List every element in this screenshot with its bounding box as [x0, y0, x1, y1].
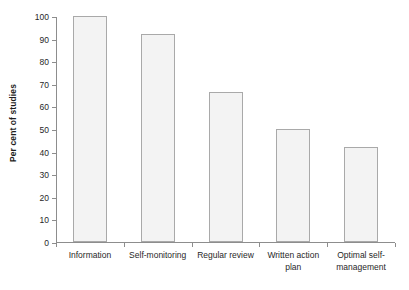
y-axis-tick-label: 90 — [40, 35, 49, 45]
bar — [141, 34, 175, 242]
x-axis-category-label: Written action plan — [259, 250, 327, 273]
bar — [73, 16, 107, 242]
x-axis-category-label: Regular review — [192, 250, 260, 262]
x-axis-tick — [124, 243, 125, 247]
y-axis-tick-label: 0 — [44, 238, 49, 248]
y-axis-tick-label-wrap: 20 — [56, 198, 57, 199]
y-axis-tick-label-wrap: 90 — [56, 40, 57, 41]
x-axis-category-label: Self-monitoring — [124, 250, 192, 262]
x-axis-tick — [192, 243, 193, 247]
bar-chart-figure: Per cent of studies 01020304050607080901… — [0, 0, 409, 290]
y-axis-tick-label: 30 — [40, 170, 49, 180]
y-axis-tick-label-wrap: 60 — [56, 107, 57, 108]
x-axis-tick — [327, 243, 328, 247]
y-axis-tick-label: 70 — [40, 80, 49, 90]
x-axis-tick — [259, 243, 260, 247]
x-axis-tick — [395, 243, 396, 247]
y-axis-tick-label: 20 — [40, 193, 49, 203]
x-axis-category-label: Optimal self-management — [327, 250, 395, 273]
bar — [209, 92, 243, 242]
y-axis-title-label: Per cent of studies — [8, 84, 18, 162]
y-axis-tick-label-wrap: 40 — [56, 153, 57, 154]
y-axis-tick-label: 100 — [35, 12, 49, 22]
plot-area: 0102030405060708090100 — [56, 17, 395, 243]
y-axis-tick-label-wrap: 80 — [56, 62, 57, 63]
y-axis-tick-label-wrap: 30 — [56, 175, 57, 176]
y-axis-tick-label-wrap: 100 — [56, 17, 57, 18]
y-axis-tick-label: 40 — [40, 148, 49, 158]
y-axis-tick-label-wrap: 50 — [56, 130, 57, 131]
y-axis-tick-label: 50 — [40, 125, 49, 135]
y-axis-title: Per cent of studies — [6, 58, 20, 188]
y-axis-tick-label: 80 — [40, 57, 49, 67]
x-axis-labels: InformationSelf-monitoringRegular review… — [56, 250, 395, 284]
y-axis-tick-label-wrap: 70 — [56, 85, 57, 86]
y-axis-tick-label: 10 — [40, 215, 49, 225]
bar — [276, 129, 310, 242]
bar — [344, 147, 378, 242]
x-axis-tick — [56, 243, 57, 247]
x-axis-line — [56, 242, 395, 243]
y-axis-tick-label-wrap: 10 — [56, 220, 57, 221]
x-axis-category-label: Information — [56, 250, 124, 262]
y-axis-tick-label: 60 — [40, 102, 49, 112]
